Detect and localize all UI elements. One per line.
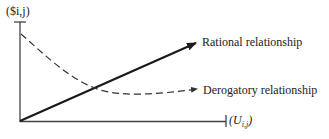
derogatory-relationship-curve (21, 34, 197, 94)
derogatory-relationship-label: Derogatory relationship (203, 83, 317, 98)
y-axis-label: ($i,j) (6, 4, 30, 19)
x-axis-label: (Ui,j) (229, 113, 252, 129)
diagram: ($i,j) Rational relationship Derogatory … (0, 0, 329, 139)
x-axis (20, 115, 226, 127)
rational-relationship-label: Rational relationship (202, 35, 302, 50)
diagram-canvas (0, 0, 329, 139)
rational-relationship-line (20, 43, 196, 121)
